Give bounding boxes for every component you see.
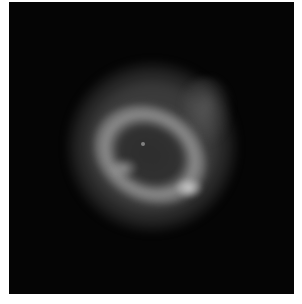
central-star (141, 142, 145, 146)
ring-bright-lower-right-region (174, 177, 204, 199)
ring-bright-left-region (109, 157, 139, 179)
nebula-image (9, 2, 294, 294)
